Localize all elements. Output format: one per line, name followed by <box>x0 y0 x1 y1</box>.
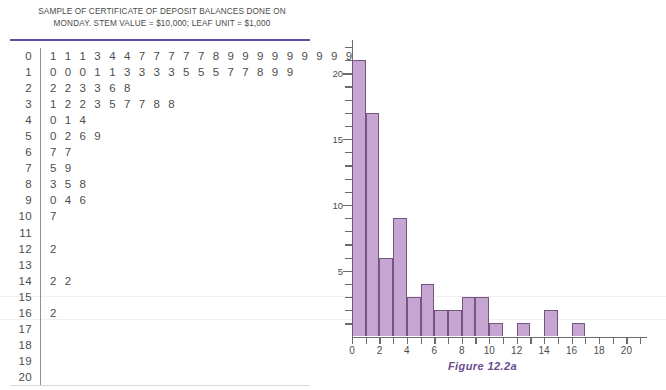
stem-leaf-row: 10 0 0 1 1 3 3 3 3 5 5 5 7 7 8 9 9 <box>10 64 310 80</box>
y-axis-minor-tick <box>345 100 352 101</box>
x-axis-tick-label: 12 <box>507 345 527 356</box>
stem-value: 18 <box>10 339 40 351</box>
stem-leaf-divider <box>40 369 41 385</box>
leaf-values: 1 2 2 3 5 7 7 8 8 <box>41 98 310 110</box>
stem-value: 0 <box>10 50 40 62</box>
stem-leaf-divider <box>40 353 41 369</box>
y-axis-tick-labels: 5101520 <box>330 0 343 390</box>
x-axis-major-tick <box>572 338 573 344</box>
stem-value: 14 <box>10 275 40 287</box>
leaf-values: 2 <box>41 243 310 255</box>
stem-leaf-divider <box>40 321 41 337</box>
stem-leaf-row: 90 4 6 <box>10 192 310 208</box>
histogram-plot-area: 5101520 02468101214161820 Figure 12.2a <box>330 0 666 390</box>
stem-leaf-title: SAMPLE OF CERTIFICATE OF DEPOSIT BALANCE… <box>12 6 312 29</box>
histogram-bar <box>434 310 448 336</box>
stem-leaf-row: 18 <box>10 337 310 353</box>
y-axis-minor-tick <box>345 47 352 48</box>
leaf-values: 7 7 <box>41 146 310 158</box>
histogram-bar <box>489 323 503 336</box>
stem-value: 17 <box>10 323 40 335</box>
x-axis-tick-label: 20 <box>616 345 636 356</box>
leaf-values: 5 9 <box>41 162 310 174</box>
histogram-panel: 5101520 02468101214161820 Figure 12.2a <box>330 0 666 390</box>
stem-value: 20 <box>10 371 40 383</box>
x-axis-major-tick <box>434 338 435 344</box>
stem-leaf-rows: 01 1 1 3 4 4 7 7 7 7 7 8 9 9 9 9 9 9 9 9… <box>10 48 310 385</box>
y-axis-minor-tick <box>345 86 352 87</box>
stem-value: 11 <box>10 227 40 239</box>
x-axis-major-tick <box>599 338 600 344</box>
histogram-bar <box>475 297 489 336</box>
stem-value: 15 <box>10 291 40 303</box>
title-divider-rule <box>10 39 310 41</box>
leaf-values: 3 5 8 <box>41 178 310 190</box>
x-axis-minor-tick <box>393 338 394 344</box>
y-axis-minor-tick <box>345 258 352 259</box>
x-axis-line <box>352 337 647 338</box>
leaf-values: 0 1 4 <box>41 114 310 126</box>
stem-leaf-row: 11 <box>10 225 310 241</box>
histogram-bar <box>393 218 407 336</box>
x-axis-tick-label: 0 <box>342 345 362 356</box>
stem-leaf-row: 01 1 1 3 4 4 7 7 7 7 7 8 9 9 9 9 9 9 9 9… <box>10 48 310 64</box>
x-axis-minor-tick <box>558 338 559 344</box>
x-axis-tick-label: 18 <box>589 345 609 356</box>
stem-leaf-row: 83 5 8 <box>10 176 310 192</box>
histogram-bar <box>352 60 366 336</box>
stem-value: 16 <box>10 307 40 319</box>
stem-leaf-row: 67 7 <box>10 144 310 160</box>
x-axis-major-tick <box>407 338 408 344</box>
stem-leaf-row: 40 1 4 <box>10 112 310 128</box>
stem-leaf-row: 50 2 6 9 <box>10 128 310 144</box>
x-axis-minor-tick <box>640 338 641 344</box>
stem-value: 2 <box>10 82 40 94</box>
x-axis-tick-label: 8 <box>452 345 472 356</box>
y-axis-minor-tick <box>345 152 352 153</box>
stem-leaf-divider <box>40 257 41 273</box>
leaf-values: 2 2 3 3 6 8 <box>41 82 310 94</box>
y-axis-minor-tick <box>345 126 352 127</box>
y-axis-major-tick <box>343 73 352 74</box>
stem-value: 12 <box>10 243 40 255</box>
y-axis-minor-tick <box>345 192 352 193</box>
x-axis-major-tick <box>489 338 490 344</box>
stem-leaf-row: 17 <box>10 321 310 337</box>
stem-value: 19 <box>10 355 40 367</box>
stem-leaf-row: 75 9 <box>10 160 310 176</box>
x-axis-minor-tick <box>448 338 449 344</box>
figure-caption: Figure 12.2a <box>448 360 517 372</box>
leaf-values: 2 <box>41 307 310 319</box>
stem-leaf-row: 122 <box>10 241 310 257</box>
y-axis-tick-label: 20 <box>319 68 343 79</box>
x-axis-tick-label: 4 <box>397 345 417 356</box>
stem-value: 9 <box>10 194 40 206</box>
y-axis-tick-label: 10 <box>319 200 343 211</box>
stem-value: 7 <box>10 162 40 174</box>
stem-leaf-row: 22 2 3 3 6 8 <box>10 80 310 96</box>
y-axis-major-tick <box>343 139 352 140</box>
y-axis-minor-tick <box>345 218 352 219</box>
histogram-bar <box>366 113 380 337</box>
y-axis-minor-tick <box>345 323 352 324</box>
stem-and-leaf-panel: SAMPLE OF CERTIFICATE OF DEPOSIT BALANCE… <box>0 0 330 390</box>
x-axis-major-tick <box>517 338 518 344</box>
x-axis-major-tick <box>544 338 545 344</box>
stem-value: 1 <box>10 66 40 78</box>
histogram-bar <box>407 297 421 336</box>
stem-leaf-row: 107 <box>10 208 310 224</box>
histogram-bar <box>572 323 586 336</box>
leaf-values: 7 <box>41 210 310 222</box>
histogram-bar <box>544 310 558 336</box>
histogram-bar <box>421 284 435 337</box>
y-axis-tick-label: 15 <box>319 134 343 145</box>
x-axis-tick-label: 14 <box>534 345 554 356</box>
x-axis-tick-label: 16 <box>562 345 582 356</box>
stem-leaf-row: 15 <box>10 289 310 305</box>
stem-leaf-row: 142 2 <box>10 273 310 289</box>
stem-value: 10 <box>10 210 40 222</box>
stem-leaf-row: 13 <box>10 257 310 273</box>
stem-leaf-row: 20 <box>10 369 310 385</box>
stem-leaf-divider <box>40 225 41 241</box>
stem-leaf-bottom-rule <box>10 385 310 386</box>
